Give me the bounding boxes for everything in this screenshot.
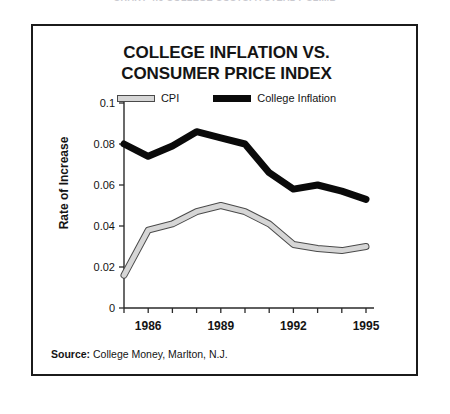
x-tick-label: 1995 bbox=[353, 319, 380, 333]
y-tick-label: 0.04 bbox=[94, 220, 115, 232]
x-tick-label: 1986 bbox=[135, 319, 162, 333]
x-tick-label: 1992 bbox=[280, 319, 307, 333]
y-tick-label: 0.06 bbox=[94, 179, 115, 191]
figure-container: COLLEGE INFLATION VS. CONSUMER PRICE IND… bbox=[31, 24, 418, 376]
clipped-headline-strip: CHART 4.6 COLLEGE COSTS: A STEADY CLIMB bbox=[0, 0, 450, 10]
clipped-headline-text: CHART 4.6 COLLEGE COSTS: A STEADY CLIMB bbox=[0, 0, 450, 3]
x-tick-label: 1989 bbox=[207, 319, 234, 333]
line-chart-svg: 00.020.040.060.080.11986198919921995 bbox=[33, 26, 420, 378]
y-tick-label: 0.08 bbox=[94, 138, 115, 150]
series-college-inflation-line bbox=[124, 132, 366, 200]
y-tick-label: 0 bbox=[109, 302, 115, 314]
series-cpi-outline bbox=[124, 206, 366, 276]
source-text: College Money, Marlton, N.J. bbox=[90, 348, 228, 360]
plot-area: 00.020.040.060.080.11986198919921995 bbox=[33, 26, 420, 378]
y-tick-label: 0.1 bbox=[100, 97, 115, 109]
series-cpi-line bbox=[124, 206, 366, 276]
page-root: CHART 4.6 COLLEGE COSTS: A STEADY CLIMB … bbox=[0, 0, 450, 414]
y-tick-label: 0.02 bbox=[94, 261, 115, 273]
source-label: Source: bbox=[51, 348, 90, 360]
source-note: Source: College Money, Marlton, N.J. bbox=[51, 348, 228, 360]
